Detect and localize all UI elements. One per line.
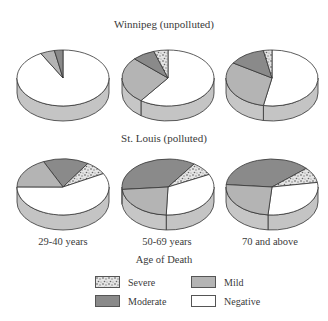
pie-0-1 bbox=[122, 50, 214, 121]
legend-label-moderate: Moderate bbox=[128, 296, 166, 307]
legend-item-mild: Mild bbox=[191, 276, 243, 288]
legend-item-negative: Negative bbox=[191, 295, 260, 307]
legend-swatch-moderate bbox=[95, 295, 120, 307]
pie-1-0 bbox=[17, 159, 109, 230]
category-label-70-above: 70 and above bbox=[220, 236, 320, 247]
legend-swatch-mild bbox=[191, 276, 216, 288]
category-label-29-40: 29-40 years bbox=[13, 236, 113, 247]
pie-0-0 bbox=[17, 50, 109, 121]
pie-1-1 bbox=[122, 159, 214, 230]
legend-label-negative: Negative bbox=[224, 296, 260, 307]
pie-0-2 bbox=[226, 50, 318, 121]
legend-item-severe: Severe bbox=[95, 276, 155, 288]
pie-1-2 bbox=[226, 159, 318, 230]
category-label-50-69: 50-69 years bbox=[117, 236, 217, 247]
legend-swatch-severe bbox=[95, 276, 120, 288]
legend-item-moderate: Moderate bbox=[95, 295, 166, 307]
legend-label-mild: Mild bbox=[224, 277, 243, 288]
pie-charts bbox=[0, 0, 328, 240]
legend-label-severe: Severe bbox=[128, 277, 155, 288]
legend-swatch-negative bbox=[191, 295, 216, 307]
x-axis-label: Age of Death bbox=[0, 254, 328, 265]
